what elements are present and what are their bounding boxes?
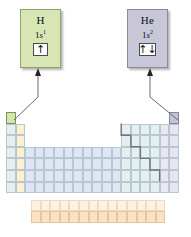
helium-spin-arrows: ↑↓ <box>138 44 156 55</box>
arrowhead-hydrogen <box>35 68 41 76</box>
helium-configuration: 1s2 <box>128 27 167 40</box>
helium-exponent: 2 <box>150 29 153 35</box>
connector-hydrogen <box>14 68 41 120</box>
diagram-canvas: H 1s1 ↑ He 1s2 ↑↓ <box>0 0 191 237</box>
helium-orbital-box: ↑↓ <box>139 43 156 56</box>
hydrogen-callout-box: H 1s1 ↑ <box>20 9 61 68</box>
arrowhead-helium <box>147 68 153 76</box>
hydrogen-exponent: 1 <box>43 29 46 35</box>
hydrogen-configuration: 1s1 <box>21 27 60 40</box>
hydrogen-spin-arrows: ↑ <box>36 44 45 55</box>
hydrogen-orbital-box: ↑ <box>33 43 48 56</box>
helium-callout-box: He 1s2 ↑↓ <box>127 9 168 68</box>
hydrogen-symbol: H <box>21 14 60 26</box>
helium-symbol: He <box>128 14 167 26</box>
connector-helium <box>147 68 178 120</box>
